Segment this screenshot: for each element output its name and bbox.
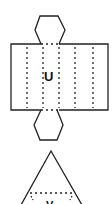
rectangle-body <box>11 44 41 110</box>
vertical-fold-lines <box>27 47 93 108</box>
triangle-outline <box>21 151 82 204</box>
net-diagram <box>0 0 112 204</box>
cylinder-net <box>11 16 108 140</box>
top-hexagon <box>35 16 65 44</box>
triangle-net <box>21 151 82 204</box>
bottom-hexagon <box>34 110 63 140</box>
rectangle-body-right <box>59 44 108 110</box>
triangle-net-label: V <box>46 200 53 204</box>
cylinder-net-label: U <box>44 70 53 83</box>
